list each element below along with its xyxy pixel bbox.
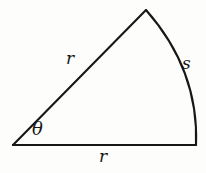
sector-diagram: r s r θ bbox=[0, 0, 206, 173]
arc-line bbox=[146, 10, 196, 145]
label-radius-base: r bbox=[99, 148, 107, 165]
label-radius-upper: r bbox=[66, 50, 74, 67]
label-central-angle-theta: θ bbox=[32, 120, 43, 138]
label-arc-length: s bbox=[182, 55, 191, 72]
